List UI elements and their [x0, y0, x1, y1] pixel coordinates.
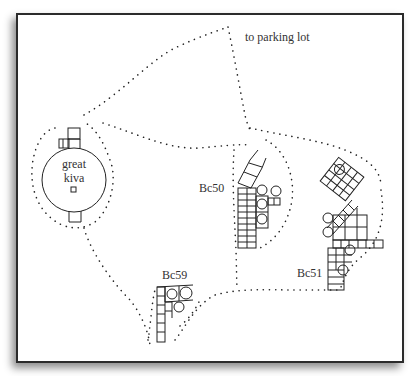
- great-kiva-label-2: kiva: [64, 171, 85, 185]
- trail-kiva-east: [103, 123, 248, 148]
- great-kiva: great kiva: [42, 128, 106, 222]
- bc51-label: Bc51: [297, 266, 322, 280]
- great-kiva-label-1: great: [62, 157, 87, 171]
- trail-kiva-to-bc59: [84, 228, 150, 345]
- bc59-label: Bc59: [162, 268, 187, 282]
- trail-to-bc51: [250, 128, 381, 185]
- trail-bc59-east: [175, 290, 340, 340]
- trail-bc50-west: [233, 150, 237, 290]
- bc51-ruin: Bc51: [297, 157, 383, 290]
- bc59-ruin: Bc59: [157, 268, 193, 342]
- site-map: great kiva Bc50: [0, 0, 417, 376]
- parking-lot-label: to parking lot: [245, 30, 310, 44]
- trail-to-parking: [84, 27, 228, 115]
- bc50-ruin: Bc50: [199, 150, 281, 248]
- bc50-label: Bc50: [199, 181, 224, 195]
